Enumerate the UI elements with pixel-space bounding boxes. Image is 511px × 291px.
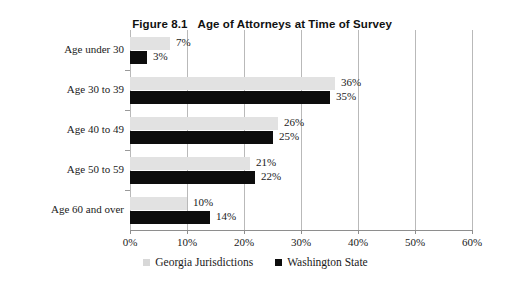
figure-caption: Age of Attorneys at Time of Survey bbox=[198, 18, 392, 30]
x-axis-tick bbox=[187, 230, 188, 234]
y-axis-tick bbox=[125, 70, 130, 71]
x-axis-tick bbox=[244, 230, 245, 234]
x-axis-tick-label: 50% bbox=[385, 236, 445, 248]
legend-item[interactable]: Washington State bbox=[275, 256, 368, 268]
bar-georgia bbox=[130, 197, 187, 210]
bar-georgia bbox=[130, 157, 250, 170]
bar-value-label: 3% bbox=[153, 50, 168, 62]
bar-value-label: 36% bbox=[341, 76, 361, 88]
bar-washington bbox=[130, 171, 255, 184]
bar-value-label: 10% bbox=[193, 196, 213, 208]
bar-value-label: 35% bbox=[336, 90, 356, 102]
bar-value-label: 22% bbox=[261, 170, 281, 182]
y-axis-tick bbox=[125, 110, 130, 111]
gridline-60 bbox=[472, 30, 473, 230]
legend-swatch-icon bbox=[143, 259, 150, 266]
legend-label: Washington State bbox=[287, 256, 368, 268]
chart-legend: Georgia JurisdictionsWashington State bbox=[0, 256, 511, 268]
bar-value-label: 7% bbox=[176, 36, 191, 48]
legend-label: Georgia Jurisdictions bbox=[155, 256, 253, 268]
bar-washington bbox=[130, 211, 210, 224]
legend-swatch-icon bbox=[275, 259, 282, 266]
category-label: Age 60 and over bbox=[6, 203, 124, 215]
x-axis-tick bbox=[130, 230, 131, 234]
bar-value-label: 21% bbox=[256, 156, 276, 168]
legend-item[interactable]: Georgia Jurisdictions bbox=[143, 256, 253, 268]
bar-value-label: 25% bbox=[279, 130, 299, 142]
bar-georgia bbox=[130, 77, 335, 90]
figure-number: Figure 8.1 bbox=[132, 18, 187, 30]
bar-georgia bbox=[130, 37, 170, 50]
category-label: Age 40 to 49 bbox=[6, 123, 124, 135]
x-axis-tick-label: 40% bbox=[328, 236, 388, 248]
bar-washington bbox=[130, 51, 147, 64]
category-label: Age under 30 bbox=[6, 43, 124, 55]
bar-georgia bbox=[130, 117, 278, 130]
x-axis-tick bbox=[358, 230, 359, 234]
x-axis-tick-label: 0% bbox=[100, 236, 160, 248]
y-axis-tick bbox=[125, 150, 130, 151]
x-axis-tick bbox=[472, 230, 473, 234]
x-axis-tick bbox=[301, 230, 302, 234]
x-axis-tick-label: 60% bbox=[442, 236, 502, 248]
x-axis-tick-label: 30% bbox=[271, 236, 331, 248]
category-label: Age 50 to 59 bbox=[6, 163, 124, 175]
bar-washington bbox=[130, 91, 330, 104]
x-axis-tick bbox=[415, 230, 416, 234]
bar-value-label: 26% bbox=[284, 116, 304, 128]
chart-page: Figure 8.1Age of Attorneys at Time of Su… bbox=[0, 0, 511, 291]
x-axis-tick-label: 10% bbox=[157, 236, 217, 248]
bar-washington bbox=[130, 131, 273, 144]
plot-area: 7%3%36%35%26%25%21%22%10%14% bbox=[130, 30, 472, 230]
gridline-50 bbox=[415, 30, 416, 230]
gridline-40 bbox=[358, 30, 359, 230]
gridline-30 bbox=[301, 30, 302, 230]
x-axis-tick-label: 20% bbox=[214, 236, 274, 248]
category-label: Age 30 to 39 bbox=[6, 83, 124, 95]
bar-value-label: 14% bbox=[216, 210, 236, 222]
y-axis-tick bbox=[125, 190, 130, 191]
